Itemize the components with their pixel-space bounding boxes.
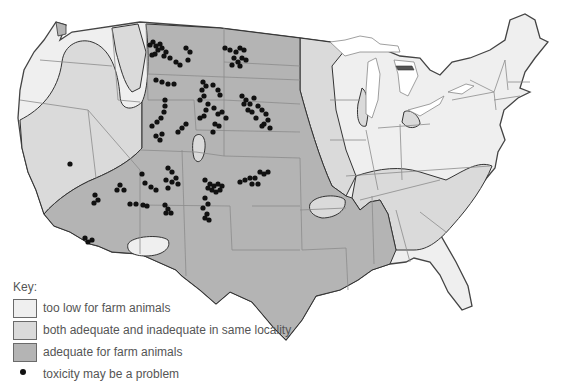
legend-title: Key:	[13, 280, 37, 294]
zone-mixed-island-colorado	[193, 135, 206, 162]
legend-swatch-adequate	[13, 343, 37, 362]
legend-swatch-too-low	[13, 299, 37, 318]
black-dot-icon	[20, 369, 26, 375]
legend-label-adequate: adequate for farm animals	[43, 345, 182, 359]
adequate-patch-michigan-up	[396, 66, 414, 70]
legend-label-mixed: both adequate and inadequate in same loc…	[43, 323, 291, 337]
legend-label-too-low: too low for farm animals	[43, 301, 170, 315]
legend-swatch-mixed	[13, 321, 37, 340]
legend-label-toxicity: toxicity may be a problem	[43, 367, 179, 381]
